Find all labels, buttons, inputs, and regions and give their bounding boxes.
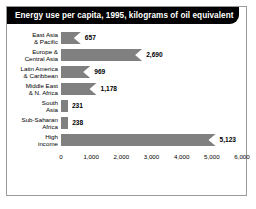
bar-track: 2,690 (61, 49, 242, 61)
bar-row: Middle East & N. Africa1,178 (7, 81, 246, 97)
category-label: High income (7, 133, 58, 148)
x-tick-label: 0 (59, 153, 62, 161)
bar (61, 134, 216, 146)
bar-value-label: 2,690 (146, 51, 163, 59)
bar-row: Latin America & Caribbean969 (7, 64, 246, 80)
bar-track: 969 (61, 66, 242, 78)
bar-track: 1,178 (61, 83, 242, 95)
x-tick-label: 3,000 (144, 153, 159, 161)
bar-value-label: 1,178 (101, 85, 118, 93)
bar-value-label: 657 (85, 34, 96, 42)
bar-row: Europe & Central Asia2,690 (7, 47, 246, 63)
chart-title-bar: Energy use per capita, 1995, kilograms o… (7, 7, 239, 24)
x-tick-label: 4,000 (174, 153, 189, 161)
chart-frame: Energy use per capita, 1995, kilograms o… (6, 6, 247, 196)
bar-value-label: 238 (72, 119, 83, 127)
bar-row: South Asia231 (7, 98, 246, 114)
bar (61, 83, 97, 95)
category-label: Europe & Central Asia (7, 48, 58, 63)
bar-rows: East Asia & Pacific657Europe & Central A… (7, 30, 246, 149)
category-label: Latin America & Caribbean (7, 65, 58, 80)
plot-area: East Asia & Pacific657Europe & Central A… (7, 25, 246, 195)
x-tick-label: 1,000 (83, 153, 98, 161)
bar-track: 5,123 (61, 134, 242, 146)
bar-row: Sub-Saharan Africa238 (7, 115, 246, 131)
bar (61, 117, 68, 129)
bar-row: High income5,123 (7, 132, 246, 148)
bar (61, 100, 68, 112)
bar-value-label: 231 (72, 102, 83, 110)
category-label: East Asia & Pacific (7, 31, 58, 46)
bar-value-label: 5,123 (220, 136, 237, 144)
bar (61, 32, 81, 44)
bar (61, 66, 90, 78)
x-tick-label: 5,000 (204, 153, 219, 161)
x-tick-label: 6,000 (234, 153, 249, 161)
chart-title: Energy use per capita, 1995, kilograms o… (15, 10, 233, 21)
x-tick-label: 2,000 (114, 153, 129, 161)
bar-track: 231 (61, 100, 242, 112)
bar-track: 657 (61, 32, 242, 44)
bar (61, 49, 142, 61)
bar-value-label: 969 (94, 68, 105, 76)
category-label: South Asia (7, 99, 58, 114)
chart-page: Energy use per capita, 1995, kilograms o… (0, 0, 256, 209)
category-label: Middle East & N. Africa (7, 82, 58, 97)
bar-row: East Asia & Pacific657 (7, 30, 246, 46)
bar-track: 238 (61, 117, 242, 129)
x-axis: 01,0002,0003,0004,0005,0006,000 (61, 152, 242, 166)
category-label: Sub-Saharan Africa (7, 116, 58, 131)
